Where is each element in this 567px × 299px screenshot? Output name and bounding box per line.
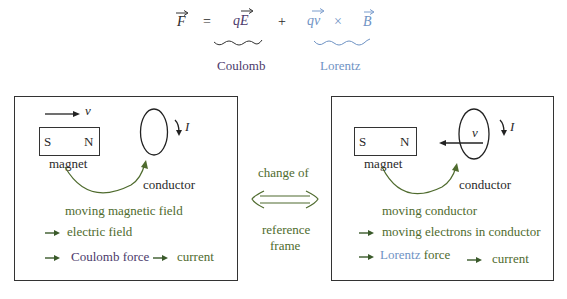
- vector-arrow-icon: [175, 10, 189, 16]
- implies-arrow-icon: [359, 229, 375, 237]
- magnet: S N: [354, 127, 417, 156]
- line-current: current: [492, 251, 529, 267]
- conductor-label: conductor: [459, 177, 511, 193]
- coulomb-term: qE: [233, 13, 249, 29]
- force-symbol: F: [177, 14, 186, 30]
- implies-arrow-icon: [359, 253, 375, 261]
- cross-sign: ×: [334, 14, 342, 30]
- implies-arrow-icon: [45, 254, 61, 262]
- lorentz-term-qv: qv: [307, 13, 320, 29]
- equals-sign: =: [203, 14, 211, 30]
- conductor-moving-panel: S N magnet v I conductor moving conducto…: [331, 96, 554, 281]
- current-arrow-icon: [498, 119, 510, 137]
- plus-sign: +: [278, 14, 286, 30]
- current-label: I: [185, 119, 189, 135]
- line-lorentz-force: Lorentz force: [380, 247, 450, 263]
- line-moving-magnetic-field: moving magnetic field: [65, 203, 183, 219]
- coulomb-wavy-brace: [213, 38, 263, 48]
- magnet-south: S: [359, 134, 366, 150]
- line-coulomb-force: Coulomb force: [71, 249, 149, 265]
- lorentz-label: Lorentz: [320, 58, 360, 74]
- vector-arrow-icon: [363, 9, 375, 15]
- current-arrow-icon: [173, 119, 185, 137]
- magnet-south: S: [44, 134, 51, 150]
- lorentz-term-b: B: [363, 14, 372, 30]
- conductor-loop: [139, 107, 169, 157]
- velocity-arrow-icon: [45, 110, 81, 118]
- double-arrow-icon: [250, 190, 320, 210]
- current-label: I: [510, 119, 514, 135]
- change-of-label: change of: [258, 165, 309, 181]
- vector-arrow-icon: [311, 8, 325, 14]
- lorentz-wavy-brace: [313, 38, 371, 48]
- reference-label: reference: [262, 222, 310, 238]
- line-electric-field: electric field: [67, 224, 132, 240]
- implies-arrow-icon: [45, 229, 61, 237]
- velocity-label: v: [85, 103, 91, 119]
- magnet-north: N: [400, 134, 409, 150]
- coulomb-force-term: Coulomb: [71, 249, 119, 264]
- coulomb-label: Coulomb: [217, 58, 265, 74]
- frame-label: frame: [270, 238, 300, 254]
- line-moving-conductor: moving conductor: [382, 203, 477, 219]
- magnet: S N: [39, 127, 100, 156]
- force-word: force: [424, 247, 451, 262]
- curved-arrow-icon: [63, 159, 148, 205]
- magnet-moving-panel: v S N magnet I conductor moving magnetic…: [14, 96, 238, 281]
- line-moving-electrons: moving electrons in conductor: [382, 224, 541, 240]
- implies-arrow-icon: [467, 256, 483, 264]
- force-word: force: [123, 249, 150, 264]
- magnet-north: N: [84, 134, 93, 150]
- implies-arrow-icon: [153, 254, 169, 262]
- conductor-label: conductor: [143, 177, 195, 193]
- lorentz-force-term: Lorentz: [380, 247, 420, 262]
- velocity-label: v: [472, 125, 478, 141]
- line-current: current: [177, 249, 214, 265]
- vector-arrow-icon: [240, 8, 254, 14]
